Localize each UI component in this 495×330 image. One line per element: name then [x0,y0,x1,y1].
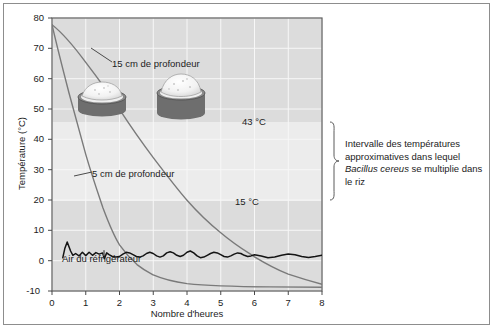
x-tick-4: 4 [177,297,197,308]
x-tick-1: 1 [76,297,96,308]
series-label-5cm: 5 cm de profondeur [92,168,174,179]
y-axis-title: Température (°C) [16,99,27,209]
x-axis-title: Nombre d'heures [52,308,322,319]
y-tick-70: 70 [22,42,44,53]
x-tick-7: 7 [278,297,298,308]
note-line-3: se multiplie [409,163,459,174]
growth-range-note: Intervalle des températures approximativ… [345,138,490,188]
series-label-15cm: 15 cm de profondeur [112,58,200,69]
x-tick-3: 3 [143,297,163,308]
note-line-1: Intervalle des températures [345,138,460,149]
range-bracket [330,122,339,200]
x-tick-2: 2 [110,297,130,308]
y-tick-10: 10 [22,224,44,235]
y-tick-60: 60 [22,73,44,84]
x-tick-0: 0 [42,297,62,308]
y-tick-0: 0 [22,255,44,266]
x-tick-8: 8 [312,297,332,308]
series-label-fridge-air: Air du réfrigérateur [62,253,141,264]
x-tick-5: 5 [211,297,231,308]
temperature-label-15: 15 °C [235,196,259,207]
note-line-2: approximatives dans lequel [345,151,460,162]
y-tick-80: 80 [22,12,44,23]
figure-container: 80 70 60 50 40 30 20 10 0 -10 0 1 2 3 4 … [0,0,495,330]
x-tick-6: 6 [245,297,265,308]
temperature-label-43: 43 °C [242,116,266,127]
note-species: Bacillus cereus [345,163,409,174]
y-tick-neg10: -10 [18,285,40,296]
